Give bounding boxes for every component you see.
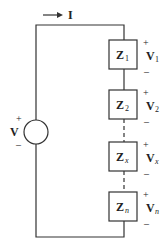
svg-text:–: –	[143, 218, 150, 229]
impedance-z1: Z 1 + V 1 –	[109, 37, 159, 77]
svg-text:1: 1	[155, 55, 159, 64]
svg-text:n: n	[125, 206, 129, 215]
svg-text:V: V	[146, 151, 155, 165]
svg-text:–: –	[143, 116, 150, 127]
svg-text:+: +	[143, 189, 149, 200]
svg-text:V: V	[146, 201, 155, 215]
svg-text:Z: Z	[116, 98, 124, 112]
impedance-zx: Z x + V x –	[109, 139, 159, 179]
current-arrow-icon	[43, 12, 63, 18]
svg-text:2: 2	[155, 105, 159, 114]
svg-text:Z: Z	[116, 200, 124, 214]
svg-text:V: V	[146, 49, 155, 63]
svg-text:+: +	[143, 139, 149, 150]
source-plus-sign: +	[16, 113, 22, 124]
current-label: I	[68, 8, 73, 22]
impedance-zn: Z n + V n –	[109, 189, 159, 229]
source-label: V	[10, 125, 19, 139]
source-minus-sign: –	[15, 139, 22, 150]
svg-text:Z: Z	[116, 48, 124, 62]
svg-text:–: –	[143, 168, 150, 179]
svg-text:+: +	[143, 37, 149, 48]
svg-text:x: x	[154, 157, 159, 166]
impedance-z2: Z 2 + V 2 –	[109, 87, 159, 127]
svg-text:1: 1	[125, 54, 129, 63]
svg-text:V: V	[146, 99, 155, 113]
svg-text:n: n	[155, 207, 159, 216]
svg-text:+: +	[143, 87, 149, 98]
svg-text:Z: Z	[116, 150, 124, 164]
voltage-source-icon	[24, 120, 48, 144]
svg-text:2: 2	[125, 104, 129, 113]
svg-text:–: –	[143, 66, 150, 77]
svg-text:x: x	[124, 156, 129, 165]
circuit-diagram: I + V – Z 1 + V 1 – Z 2 + V 2 – Z x + V …	[0, 0, 166, 251]
